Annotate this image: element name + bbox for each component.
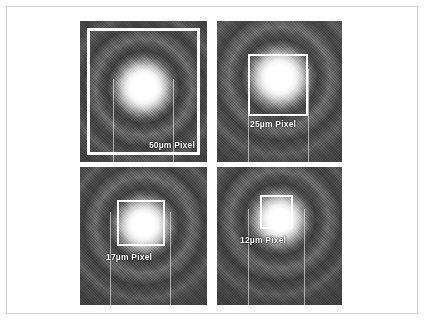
pixel-square-25um[interactable] [248,54,308,116]
pixel-square-17um[interactable] [117,200,165,246]
panel-label-12um: 12µm Pixel [240,235,286,245]
pixel-square-12um[interactable] [260,195,293,229]
panel-25um[interactable]: 25µm Pixel [217,21,342,162]
panel-label-50um: 50µm Pixel [149,140,195,150]
panel-12um[interactable]: 12µm Pixel [217,167,342,305]
panel-grid: 50µm Pixel 25µm Pixel 17µm Pixel [80,21,342,305]
panel-label-25um: 25µm Pixel [250,119,296,129]
panel-50um[interactable]: 50µm Pixel [80,21,207,162]
panel-17um[interactable]: 17µm Pixel [80,167,207,305]
pixel-square-50um[interactable] [87,28,200,155]
panel-label-17um: 17µm Pixel [106,252,152,262]
figure-root: 50µm Pixel 25µm Pixel 17µm Pixel [0,0,424,326]
